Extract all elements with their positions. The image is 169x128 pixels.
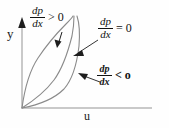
annotation-favorable-gradient: dp dx > 0 (30, 5, 64, 29)
relation-value: 0 (126, 21, 132, 35)
arrowhead-adverse (78, 73, 88, 80)
fraction-dp-dx-zero: dp dx (98, 16, 113, 40)
fraction-denominator: dx (99, 29, 111, 40)
fraction-numerator: dp (99, 64, 111, 74)
annotation-adverse-gradient: dp dx < o (97, 64, 131, 87)
relation-zero: = 0 (116, 21, 132, 36)
relation-operator: > (48, 10, 55, 24)
leader-zero-gradient (73, 40, 98, 56)
curve-zero-gradient (22, 16, 74, 108)
curve-adverse (22, 16, 79, 108)
relation-operator: < (115, 68, 122, 82)
relation-favorable: > 0 (48, 10, 64, 25)
y-axis-arrowhead (18, 17, 26, 28)
relation-operator: = (116, 21, 123, 35)
fraction-numerator: dp (31, 5, 44, 16)
relation-value: 0 (58, 10, 64, 24)
curve-favorable (22, 16, 73, 108)
relation-adverse: < o (115, 68, 131, 83)
fraction-denominator: dx (99, 77, 111, 87)
x-axis-label: u (84, 110, 90, 122)
velocity-profile-figure: y u dp dx > 0 dp dx = 0 dp dx (0, 0, 169, 128)
annotation-zero-gradient: dp dx = 0 (98, 16, 132, 40)
y-axis-label: y (7, 27, 14, 40)
fraction-dp-dx-adverse: dp dx (97, 64, 112, 87)
relation-value: o (125, 68, 131, 82)
arrowhead-favorable (55, 40, 62, 49)
fraction-numerator: dp (99, 16, 112, 27)
fraction-dp-dx-favorable: dp dx (30, 5, 45, 29)
fraction-denominator: dx (31, 18, 43, 29)
